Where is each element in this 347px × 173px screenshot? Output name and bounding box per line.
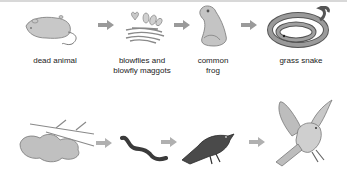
- arrow-icon: [174, 20, 190, 30]
- arrow-icon: [96, 138, 112, 148]
- arrow-icon: [241, 20, 257, 30]
- label-blowflies: blowflies and blowfly maggots: [106, 56, 178, 76]
- top-border: [0, 0, 347, 2]
- label-grass-snake: grass snake: [266, 56, 336, 66]
- blowfly-maggots-icon: [122, 10, 168, 46]
- snake-icon: [266, 6, 332, 48]
- blackbird-icon: [180, 126, 238, 168]
- arrow-icon: [161, 137, 177, 147]
- label-dead-animal: dead animal: [20, 56, 90, 66]
- hawk-icon: [270, 96, 336, 172]
- dead-mouse-icon: [22, 12, 86, 46]
- frog-icon: [196, 4, 232, 48]
- arrow-icon: [249, 137, 265, 147]
- arrow-icon: [98, 20, 114, 30]
- dead-leaves-twigs-icon: [16, 118, 96, 164]
- label-common-frog: common frog: [188, 56, 238, 76]
